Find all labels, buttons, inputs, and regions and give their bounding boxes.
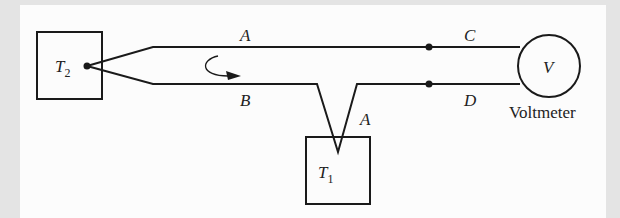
wire-label-d: D	[463, 91, 477, 110]
wire-label-c: C	[464, 26, 476, 45]
wire-a-upper	[87, 47, 520, 66]
thermocouple-diagram: T2 T1 A B A C D V Voltmeter	[0, 0, 620, 218]
t1-label: T1	[318, 163, 333, 186]
t2-label: T2	[55, 57, 70, 80]
wire-b-lower	[87, 66, 520, 152]
junction-dot-lower	[426, 81, 433, 88]
junction-dot-upper	[426, 44, 433, 51]
current-direction-arrow-icon	[206, 56, 228, 76]
wire-label-a-upper: A	[239, 26, 251, 45]
wire-label-a-junction: A	[359, 110, 371, 129]
voltmeter-caption: Voltmeter	[509, 103, 576, 122]
wire-label-b: B	[240, 91, 251, 110]
t1-reservoir-box	[306, 137, 370, 204]
arrowhead-icon	[226, 71, 241, 80]
